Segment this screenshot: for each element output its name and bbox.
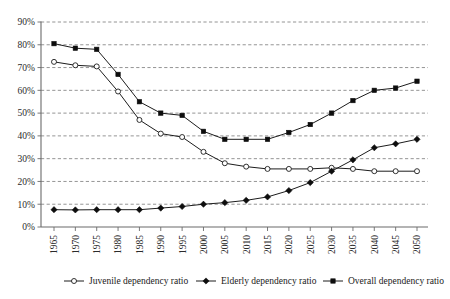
data-point-marker — [116, 89, 121, 94]
x-axis-tick-label: 1985 — [135, 235, 145, 254]
data-point-marker — [331, 279, 335, 283]
data-point-marker — [52, 41, 56, 45]
x-axis-tick-label: 2040 — [370, 235, 380, 254]
data-point-marker — [286, 166, 291, 171]
y-axis-tick-label: 20% — [18, 177, 36, 187]
x-axis-tick-label: 2035 — [348, 235, 358, 254]
x-axis-tick-label: 2015 — [263, 235, 273, 254]
legend-label: Overall dependency ratio — [348, 276, 444, 286]
data-point-marker — [201, 149, 206, 154]
x-axis-tick-label: 2010 — [242, 235, 252, 254]
data-point-marker — [308, 166, 313, 171]
data-point-marker — [72, 279, 77, 284]
data-point-marker — [372, 88, 376, 92]
x-axis-tick-label: 1990 — [156, 235, 166, 254]
data-point-marker — [201, 129, 205, 133]
x-axis-tick-label: 2045 — [391, 235, 401, 254]
y-axis-tick-label: 40% — [18, 131, 36, 141]
x-axis-tick-label: 2020 — [284, 235, 294, 254]
x-axis-tick-label: 2005 — [220, 235, 230, 254]
x-axis-tick-label: 1995 — [178, 235, 188, 254]
data-point-marker — [95, 47, 99, 51]
data-point-marker — [265, 166, 270, 171]
y-axis-tick-label: 70% — [18, 63, 36, 73]
chart-canvas: 0%10%20%30%40%50%60%70%80%90% 1965197019… — [0, 0, 450, 299]
data-point-marker — [137, 117, 142, 122]
data-point-marker — [265, 137, 269, 141]
data-point-marker — [159, 111, 163, 115]
dependency-ratio-chart: 0%10%20%30%40%50%60%70%80%90% 1965197019… — [0, 0, 450, 299]
x-axis-tick-label: 2030 — [327, 235, 337, 254]
y-axis-tick-label: 0% — [22, 222, 35, 232]
data-point-marker — [137, 100, 141, 104]
y-axis-tick-label: 80% — [18, 40, 36, 50]
data-point-marker — [116, 72, 120, 76]
x-axis-tick-label: 1980 — [113, 235, 123, 254]
data-point-marker — [73, 46, 77, 50]
data-point-marker — [393, 169, 398, 174]
y-axis-tick-label: 30% — [18, 154, 36, 164]
y-axis-tick-label: 60% — [18, 86, 36, 96]
x-axis-tick-label: 1965 — [49, 235, 59, 254]
chart-legend: Juvenile dependency ratioElderly depende… — [64, 276, 444, 286]
data-point-marker — [351, 98, 355, 102]
data-point-marker — [73, 63, 78, 68]
data-point-marker — [393, 86, 397, 90]
y-axis-tick-label: 10% — [18, 200, 36, 210]
x-axis-tick-label: 2000 — [199, 235, 209, 254]
data-point-marker — [308, 122, 312, 126]
data-point-marker — [158, 131, 163, 136]
x-axis-tick-label: 2025 — [306, 235, 316, 254]
data-point-marker — [350, 166, 355, 171]
x-axis-tick-label: 1970 — [71, 235, 81, 254]
x-axis-tick-label: 1975 — [92, 235, 102, 254]
data-point-marker — [415, 79, 419, 83]
data-point-marker — [94, 64, 99, 69]
data-point-marker — [180, 113, 184, 117]
y-axis-tick-label: 50% — [18, 108, 36, 118]
data-point-marker — [372, 169, 377, 174]
data-point-marker — [329, 111, 333, 115]
data-point-marker — [52, 59, 57, 64]
data-point-marker — [223, 137, 227, 141]
legend-label: Elderly dependency ratio — [221, 276, 317, 286]
data-point-marker — [287, 130, 291, 134]
legend-label: Juvenile dependency ratio — [89, 276, 188, 286]
data-point-marker — [415, 169, 420, 174]
data-point-marker — [180, 135, 185, 140]
data-point-marker — [222, 161, 227, 166]
data-point-marker — [244, 137, 248, 141]
x-axis-tick-label: 2050 — [412, 235, 422, 254]
data-point-marker — [244, 164, 249, 169]
y-axis-tick-label: 90% — [18, 17, 36, 27]
